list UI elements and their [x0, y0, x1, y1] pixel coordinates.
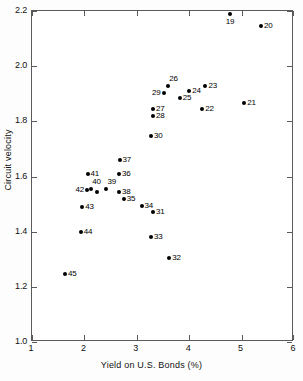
data-point-label: 43	[85, 203, 94, 211]
data-point-label: 45	[68, 270, 77, 278]
y-axis-title: Circuit velocity	[3, 100, 13, 220]
x-axis-title: Yield on U.S. Bonds (%)	[0, 360, 303, 370]
data-point	[166, 84, 170, 88]
data-point	[95, 190, 99, 194]
data-point	[203, 84, 207, 88]
data-point	[242, 101, 246, 105]
data-point	[80, 205, 84, 209]
x-tick-label: 3	[126, 344, 146, 353]
data-point	[259, 24, 263, 28]
x-tick-mark-top	[293, 11, 294, 16]
data-point-label: 35	[127, 195, 136, 203]
data-point-label: 23	[208, 82, 217, 90]
data-point-label: 40	[92, 178, 101, 186]
data-point	[200, 107, 204, 111]
data-point-label: 26	[169, 75, 178, 83]
data-point	[79, 230, 83, 234]
data-point	[149, 134, 153, 138]
data-point	[63, 272, 67, 276]
y-tick-label: 1.2	[1, 282, 27, 291]
data-point	[104, 187, 108, 191]
y-tick-label: 1.4	[1, 227, 27, 236]
x-tick-label: 4	[178, 344, 198, 353]
x-tick-label: 1	[21, 344, 41, 353]
data-point-label: 22	[205, 105, 214, 113]
data-point-label: 37	[123, 156, 132, 164]
data-point	[151, 114, 155, 118]
data-point-label: 19	[226, 18, 235, 26]
data-point-label: 34	[145, 202, 154, 210]
data-point-label: 32	[172, 254, 181, 262]
data-point	[167, 256, 171, 260]
x-tick-label: 6	[283, 344, 303, 353]
data-point-label: 21	[247, 99, 256, 107]
data-point	[162, 91, 166, 95]
data-point	[151, 210, 155, 214]
data-point-label: 29	[152, 89, 161, 97]
data-point	[86, 172, 90, 176]
x-tick-label: 2	[73, 344, 93, 353]
data-point	[118, 158, 122, 162]
data-point	[85, 188, 89, 192]
data-point-label: 31	[156, 208, 165, 216]
scatter-plot-figure: 1920262329242527222128303741364039423835…	[0, 0, 303, 381]
data-points-layer: 1920262329242527222128303741364039423835…	[32, 11, 292, 340]
plot-frame: 1920262329242527222128303741364039423835…	[31, 10, 293, 341]
data-point	[151, 107, 155, 111]
data-point	[122, 197, 126, 201]
data-point-label: 30	[154, 132, 163, 140]
data-point-label: 42	[76, 186, 85, 194]
data-point	[89, 187, 93, 191]
data-point-label: 39	[107, 178, 116, 186]
y-tick-label: 2.0	[1, 61, 27, 70]
x-tick-mark	[293, 335, 294, 340]
data-point-label: 44	[84, 228, 93, 236]
data-point	[117, 190, 121, 194]
data-point	[178, 96, 182, 100]
x-tick-label: 5	[231, 344, 251, 353]
data-point	[117, 172, 121, 176]
data-point-label: 25	[183, 94, 192, 102]
data-point-label: 33	[154, 233, 163, 241]
data-point	[140, 204, 144, 208]
y-tick-label: 2.2	[1, 6, 27, 15]
data-point-label: 24	[192, 87, 201, 95]
data-point-label: 36	[122, 170, 131, 178]
data-point	[149, 235, 153, 239]
data-point-label: 20	[264, 22, 273, 30]
data-point-label: 28	[156, 112, 165, 120]
data-point	[228, 12, 232, 16]
